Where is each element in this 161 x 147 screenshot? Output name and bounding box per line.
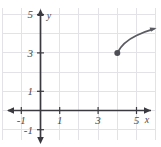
y-axis-label: y: [46, 10, 52, 21]
graph-figure: -1 1 3 5 -1 1 3 5 x y: [0, 0, 161, 147]
y-tick-label--1: -1: [24, 124, 33, 136]
coordinate-plane-svg: -1 1 3 5 -1 1 3 5 x y: [0, 0, 161, 147]
y-tick-label-3: 3: [27, 47, 34, 59]
curve-start-point-marker: [114, 50, 120, 56]
x-tick-label-3: 3: [94, 114, 101, 126]
x-tick-label-5: 5: [134, 114, 140, 126]
y-tick-label-1: 1: [28, 85, 34, 97]
x-axis-label: x: [144, 114, 150, 125]
y-tick-label-5: 5: [28, 8, 34, 20]
x-tick-label-1: 1: [57, 114, 63, 126]
